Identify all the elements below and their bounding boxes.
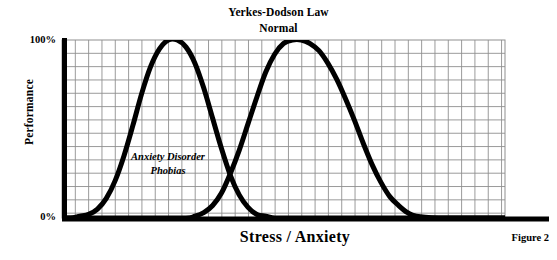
- grid-lines: [62, 40, 505, 218]
- x-axis-title: Stress / Anxiety: [160, 228, 430, 246]
- annotation-line-1: Anxiety Disorder: [116, 150, 220, 164]
- annotation-line-2: Phobias: [116, 164, 220, 178]
- annotation-anxiety-disorder-phobias: Anxiety Disorder Phobias: [116, 150, 220, 178]
- plot-area: [0, 0, 557, 260]
- yerkes-dodson-figure: Yerkes-Dodson Law Normal 100% 0% Perform…: [0, 0, 557, 260]
- figure-caption: Figure 2: [512, 232, 549, 243]
